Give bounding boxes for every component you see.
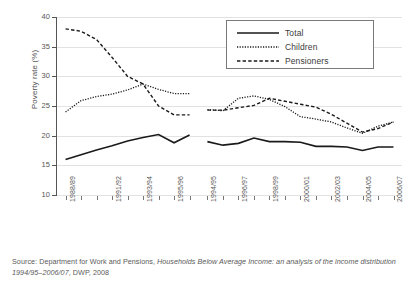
- series-line-pensioners: [207, 98, 393, 132]
- x-tick-mark: [331, 196, 332, 200]
- x-tick-label: 1988/89: [69, 176, 76, 202]
- series-line-total: [66, 134, 190, 159]
- x-tick-mark: [174, 196, 175, 200]
- series-line-children: [207, 96, 393, 133]
- x-tick-mark: [143, 196, 144, 200]
- series-line-pensioners: [66, 29, 190, 115]
- x-tick-mark: [159, 196, 160, 200]
- x-tick-mark: [316, 196, 317, 200]
- x-tick-mark: [285, 196, 286, 200]
- legend-item-pensioners: Pensioners: [227, 54, 373, 68]
- x-tick-label: 1991/92: [115, 176, 122, 202]
- source-line2-suffix: , DWP, 2008: [69, 268, 109, 277]
- x-tick-mark: [190, 196, 191, 200]
- legend-item-children: Children: [227, 40, 373, 54]
- x-tick-label: 2000/01: [303, 176, 310, 202]
- x-tick-mark: [238, 196, 239, 200]
- chart-legend: Total Children Pensioners: [226, 20, 374, 69]
- x-tick-label: 2004/05: [365, 176, 372, 202]
- x-tick-mark: [81, 196, 82, 200]
- y-tick-label: 35: [26, 42, 50, 51]
- x-tick-mark: [254, 196, 255, 200]
- y-tick-label: 30: [26, 71, 50, 80]
- source-note: Source: Department for Work and Pensions…: [12, 256, 404, 278]
- legend-swatch-dashed-icon: [235, 57, 281, 65]
- x-tick-label: 1998/99: [272, 176, 279, 202]
- x-tick-mark: [112, 196, 113, 200]
- x-tick-mark: [363, 196, 364, 200]
- x-tick-label: 2006/07: [396, 176, 403, 202]
- legend-label-children: Children: [281, 42, 317, 52]
- x-tick-mark: [269, 196, 270, 200]
- source-line1-italic: Households Below Average Income: an anal…: [157, 257, 358, 266]
- x-tick-label: 1993/94: [146, 176, 153, 202]
- legend-swatch-solid-icon: [235, 29, 281, 37]
- y-tick-label: 10: [26, 190, 50, 199]
- gridline: [57, 195, 402, 196]
- x-tick-mark: [223, 196, 224, 200]
- x-tick-mark: [394, 196, 395, 200]
- source-line1-prefix: Source: Department for Work and Pensions…: [12, 257, 157, 266]
- legend-label-pensioners: Pensioners: [281, 56, 329, 66]
- legend-label-total: Total: [281, 28, 303, 38]
- x-tick-label: 1996/97: [241, 176, 248, 202]
- x-tick-label: 2002/03: [334, 176, 341, 202]
- series-line-children: [66, 84, 190, 112]
- x-tick-mark: [347, 196, 348, 200]
- legend-item-total: Total: [227, 26, 373, 40]
- legend-swatch-dotted-icon: [235, 43, 281, 51]
- x-tick-mark: [300, 196, 301, 200]
- x-tick-label: 1994/95: [210, 176, 217, 202]
- y-tick-label: 15: [26, 160, 50, 169]
- y-tick-label: 25: [26, 101, 50, 110]
- poverty-rate-chart-figure: Poverty rate (%) 10152025303540 1988/891…: [0, 0, 415, 287]
- y-tick-label: 40: [26, 12, 50, 21]
- series-line-total: [207, 138, 393, 150]
- y-tick-label: 20: [26, 131, 50, 140]
- x-tick-mark: [66, 196, 67, 200]
- x-tick-mark: [378, 196, 379, 200]
- x-tick-mark: [128, 196, 129, 200]
- x-tick-mark: [97, 196, 98, 200]
- x-tick-mark: [207, 196, 208, 200]
- x-tick-label: 1995/96: [177, 176, 184, 202]
